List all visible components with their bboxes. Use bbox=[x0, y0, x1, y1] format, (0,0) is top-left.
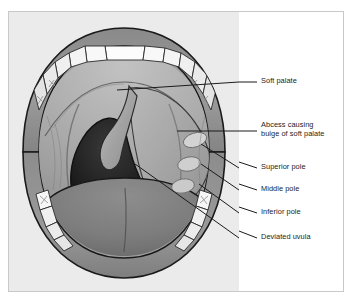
label-abcess-soft-palate: Abcess causing bulge of soft palate bbox=[261, 120, 324, 138]
label-middle-pole: Middle pole bbox=[261, 184, 299, 193]
label-deviated-uvula: Deviated uvula bbox=[261, 232, 311, 241]
stub-inferior-pole bbox=[239, 207, 257, 213]
label-inferior-pole: Inferior pole bbox=[261, 207, 301, 216]
label-panel: Soft palate Abcess causing bulge of soft… bbox=[239, 12, 343, 291]
stub-middle-pole bbox=[239, 184, 257, 190]
label-soft-palate: Soft palate bbox=[261, 76, 297, 85]
mouth-illustration bbox=[9, 12, 239, 291]
figure-frame: Soft palate Abcess causing bulge of soft… bbox=[8, 11, 344, 292]
label-superior-pole: Superior pole bbox=[261, 162, 306, 171]
stub-superior-pole bbox=[239, 162, 257, 168]
label-leader-stubs bbox=[239, 12, 343, 291]
illustration-panel bbox=[9, 12, 239, 291]
stub-deviated-uvula bbox=[239, 231, 257, 238]
